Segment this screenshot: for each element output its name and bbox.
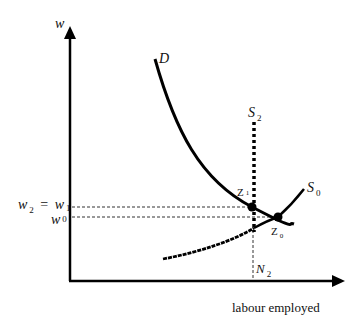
x-axis-arrow-icon [332, 275, 345, 287]
demand-curve [155, 59, 294, 225]
z1-label: Z1 [237, 187, 249, 198]
y-axis-arrow-icon [64, 26, 76, 39]
z0-label: Z0 [271, 226, 283, 237]
labour-market-diagram [0, 0, 362, 320]
w2-equals-w1-label: w2 = w1 [18, 198, 71, 212]
n2-label: N2 [256, 262, 271, 275]
w0-label: w0 [51, 213, 67, 227]
s2-label: S2 [248, 106, 262, 120]
x-axis-label: labour employed [232, 301, 320, 314]
z1-point [248, 203, 257, 212]
s0-curve-lower [163, 228, 254, 259]
y-axis-label: w [55, 17, 64, 31]
z0-point [274, 213, 283, 222]
s0-label: S0 [307, 181, 321, 195]
demand-label: D [159, 52, 169, 66]
